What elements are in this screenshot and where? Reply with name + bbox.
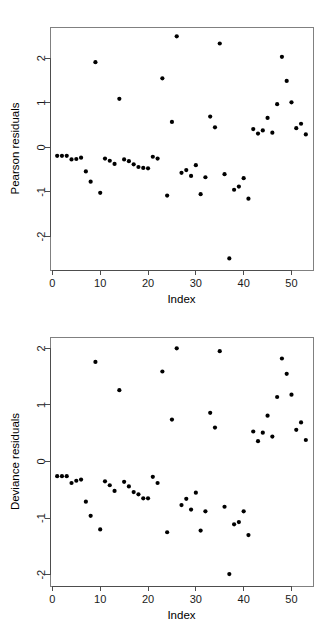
data-point bbox=[160, 76, 164, 80]
data-point bbox=[251, 127, 255, 131]
data-point bbox=[103, 479, 107, 483]
data-point bbox=[136, 492, 140, 496]
data-point bbox=[232, 522, 236, 526]
data-point bbox=[242, 176, 246, 180]
data-point bbox=[117, 388, 121, 392]
data-point bbox=[146, 166, 150, 170]
data-point bbox=[199, 192, 203, 196]
data-point bbox=[170, 418, 174, 422]
data-point bbox=[261, 431, 265, 435]
data-point bbox=[294, 126, 298, 130]
y-axis-tick-label: 2 bbox=[35, 345, 47, 351]
data-point bbox=[265, 414, 269, 418]
data-point bbox=[122, 480, 126, 484]
data-point bbox=[304, 438, 308, 442]
data-point bbox=[280, 55, 284, 59]
deviance-residuals-panel: 01020304050-2-1012IndexDeviance residual… bbox=[0, 320, 335, 636]
y-axis-tick-label: 0 bbox=[35, 458, 47, 464]
data-point bbox=[294, 428, 298, 432]
data-point bbox=[208, 115, 212, 119]
data-point bbox=[189, 508, 193, 512]
data-point bbox=[179, 503, 183, 507]
data-point bbox=[227, 572, 231, 576]
data-point bbox=[136, 165, 140, 169]
data-point bbox=[60, 474, 64, 478]
data-point bbox=[55, 154, 59, 158]
y-axis-tick-label: 1 bbox=[35, 100, 47, 106]
data-point bbox=[175, 346, 179, 350]
y-axis-tick-label: -1 bbox=[35, 187, 47, 197]
figure-container: 01020304050-2-1012IndexPearson residuals… bbox=[0, 0, 335, 636]
data-point bbox=[246, 533, 250, 537]
data-point bbox=[256, 439, 260, 443]
data-point bbox=[251, 429, 255, 433]
x-axis-title: Index bbox=[167, 609, 195, 621]
x-axis-tick-label: 20 bbox=[142, 277, 154, 289]
data-point bbox=[194, 163, 198, 167]
data-point bbox=[179, 171, 183, 175]
data-point bbox=[141, 496, 145, 500]
data-point bbox=[89, 180, 93, 184]
data-point bbox=[108, 483, 112, 487]
data-point bbox=[213, 425, 217, 429]
data-point bbox=[165, 193, 169, 197]
data-point bbox=[242, 509, 246, 513]
data-point bbox=[227, 256, 231, 260]
y-axis-title: Pearson residuals bbox=[9, 102, 21, 194]
data-point bbox=[289, 393, 293, 397]
data-point bbox=[65, 474, 69, 478]
data-point bbox=[69, 481, 73, 485]
y-axis-tick-label: 0 bbox=[35, 144, 47, 150]
x-axis-tick-label: 50 bbox=[285, 277, 297, 289]
data-point bbox=[122, 157, 126, 161]
data-point bbox=[65, 154, 69, 158]
data-point bbox=[79, 478, 83, 482]
data-point bbox=[93, 60, 97, 64]
data-point bbox=[84, 500, 88, 504]
data-point bbox=[55, 474, 59, 478]
data-point bbox=[237, 520, 241, 524]
data-point bbox=[304, 132, 308, 136]
x-axis-tick-label: 0 bbox=[49, 277, 55, 289]
data-point bbox=[146, 496, 150, 500]
x-axis-title: Index bbox=[167, 293, 195, 305]
data-point bbox=[275, 102, 279, 106]
plot-frame bbox=[50, 27, 313, 270]
x-axis-tick-label: 40 bbox=[238, 277, 250, 289]
x-axis-tick-label: 50 bbox=[285, 593, 297, 605]
data-point bbox=[74, 479, 78, 483]
x-axis-tick-label: 10 bbox=[94, 593, 106, 605]
data-point bbox=[270, 435, 274, 439]
data-point bbox=[175, 34, 179, 38]
data-point bbox=[222, 172, 226, 176]
x-axis-tick-label: 20 bbox=[142, 593, 154, 605]
data-point bbox=[155, 156, 159, 160]
data-point bbox=[160, 369, 164, 373]
data-point bbox=[184, 497, 188, 501]
data-point bbox=[127, 484, 131, 488]
data-point bbox=[98, 527, 102, 531]
data-point bbox=[170, 120, 174, 124]
data-point bbox=[203, 175, 207, 179]
data-point bbox=[127, 159, 131, 163]
deviance-residuals-plot: 01020304050-2-1012IndexDeviance residual… bbox=[0, 320, 335, 636]
data-point bbox=[84, 169, 88, 173]
data-point bbox=[232, 188, 236, 192]
data-point-group bbox=[55, 34, 308, 260]
data-point bbox=[285, 79, 289, 83]
y-axis-tick-label: -2 bbox=[35, 232, 47, 242]
y-axis-tick-label: -2 bbox=[35, 570, 47, 580]
data-point bbox=[299, 420, 303, 424]
data-point bbox=[285, 372, 289, 376]
data-point bbox=[222, 505, 226, 509]
data-point bbox=[117, 97, 121, 101]
data-point bbox=[203, 509, 207, 513]
x-axis-tick-label: 10 bbox=[94, 277, 106, 289]
data-point bbox=[89, 514, 93, 518]
data-point bbox=[270, 131, 274, 135]
data-point bbox=[261, 128, 265, 132]
x-axis-tick-label: 30 bbox=[190, 593, 202, 605]
data-point bbox=[155, 481, 159, 485]
data-point bbox=[132, 162, 136, 166]
data-point bbox=[213, 125, 217, 129]
